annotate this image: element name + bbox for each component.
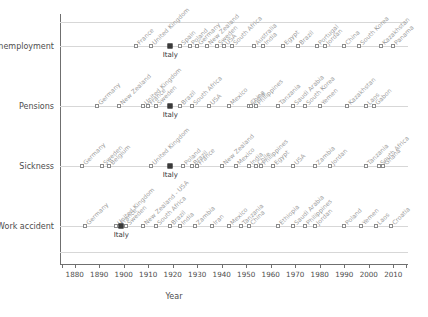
data-point[interactable] [249,104,253,108]
data-point[interactable] [207,104,211,108]
data-point[interactable] [234,164,238,168]
category-label-unemployment: Unemployment [0,42,54,51]
data-point[interactable] [276,224,280,228]
data-point-highlight[interactable] [168,104,173,109]
data-point[interactable] [141,104,145,108]
data-point[interactable] [377,164,381,168]
data-point[interactable] [149,164,153,168]
data-point[interactable] [364,164,368,168]
data-point[interactable] [261,44,265,48]
point-label: Mexico [229,86,249,106]
data-point[interactable] [254,104,258,108]
data-point[interactable] [303,104,307,108]
data-point[interactable] [276,104,280,108]
point-label: USA [209,92,223,106]
data-point[interactable] [230,44,234,48]
x-tick [295,264,296,268]
data-point[interactable] [315,44,319,48]
data-point[interactable] [195,164,199,168]
data-point[interactable] [124,224,128,228]
x-tick [369,264,370,268]
category-label-work-accident: Work accident [0,222,54,231]
point-label: South Africa [192,74,224,106]
data-point[interactable] [342,44,346,48]
data-point[interactable] [291,104,295,108]
x-tick [148,264,149,268]
data-point[interactable] [178,224,182,228]
data-point[interactable] [190,164,194,168]
data-point[interactable] [342,224,346,228]
data-point[interactable] [318,104,322,108]
data-point[interactable] [178,104,182,108]
data-point[interactable] [178,44,182,48]
x-tick [271,264,272,268]
data-point[interactable] [328,164,332,168]
x-tick-label: 1930 [188,270,206,279]
data-point[interactable] [190,104,194,108]
frame-rule [60,252,408,253]
data-point[interactable] [291,224,295,228]
data-point[interactable] [181,164,185,168]
data-point[interactable] [154,224,158,228]
data-point[interactable] [247,164,251,168]
data-point[interactable] [222,44,226,48]
data-point[interactable] [83,224,87,228]
data-point[interactable] [220,164,224,168]
point-label: Germany [96,81,121,106]
data-point[interactable] [291,164,295,168]
data-point[interactable] [252,44,256,48]
data-point[interactable] [281,44,285,48]
data-point[interactable] [227,104,231,108]
data-point[interactable] [379,44,383,48]
category-label-pensions: Pensions [19,102,54,111]
x-tick-label: 2000 [360,270,378,279]
plot-area: 1880189019001910192019301940195019601970… [60,14,408,264]
x-tick [393,264,394,268]
data-point[interactable] [296,44,300,48]
data-point[interactable] [313,224,317,228]
data-point[interactable] [195,44,199,48]
data-point[interactable] [154,104,158,108]
data-point[interactable] [359,224,363,228]
highlight-label: Italy [163,111,178,119]
data-point[interactable] [239,224,243,228]
data-point[interactable] [389,224,393,228]
data-point[interactable] [134,44,138,48]
data-point[interactable] [205,44,209,48]
data-point[interactable] [141,224,145,228]
data-point[interactable] [271,164,275,168]
data-point[interactable] [188,44,192,48]
data-point[interactable] [117,104,121,108]
data-point[interactable] [254,164,258,168]
data-point[interactable] [345,104,349,108]
data-point[interactable] [215,44,219,48]
data-point[interactable] [323,44,327,48]
data-point[interactable] [107,164,111,168]
data-point[interactable] [247,224,251,228]
data-point-highlight[interactable] [168,44,173,49]
data-point[interactable] [313,164,317,168]
data-point[interactable] [193,224,197,228]
data-point[interactable] [168,224,172,228]
data-point[interactable] [95,104,99,108]
data-point[interactable] [391,44,395,48]
data-point[interactable] [210,224,214,228]
data-point[interactable] [357,44,361,48]
data-point[interactable] [303,224,307,228]
data-point[interactable] [80,164,84,168]
x-tick [124,264,125,268]
data-point[interactable] [100,164,104,168]
data-point[interactable] [364,104,368,108]
data-point[interactable] [374,224,378,228]
data-point-highlight[interactable] [119,224,124,229]
data-point[interactable] [146,104,150,108]
category-rule-unemployment [60,46,408,47]
data-point[interactable] [259,164,263,168]
data-point[interactable] [227,224,231,228]
data-point[interactable] [381,164,385,168]
data-point-highlight[interactable] [168,164,173,169]
x-tick [173,264,174,268]
x-tick [246,264,247,268]
data-point[interactable] [372,104,376,108]
data-point[interactable] [149,44,153,48]
